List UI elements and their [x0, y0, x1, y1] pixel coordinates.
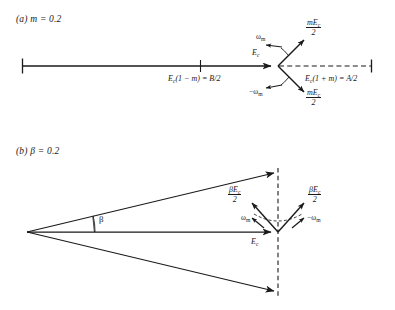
sideband-right-b-num-main: βE	[309, 185, 318, 194]
rotation-label-lower-a-sub: m	[258, 91, 262, 97]
panel-b-vectors	[27, 168, 304, 296]
rotation-label-lower-a: −ωm	[249, 88, 263, 96]
sideband-upper-phasor-a	[278, 40, 304, 66]
figure-root: (a) m = 0.2 Ec ωm −ωm mEc 2 mEc 2 Ec(1 −…	[0, 0, 395, 310]
sideband-left-b-num-sub: c	[238, 189, 240, 195]
sideband-upper-a-num-main: mE	[307, 18, 318, 27]
sideband-label-left-b-den: 2	[228, 195, 241, 204]
carrier-label-b-sub: c	[256, 241, 258, 247]
sideband-label-lower-a-den: 2	[306, 98, 321, 107]
carrier-label-a: Ec	[252, 49, 259, 57]
angle-label-b: β	[99, 215, 104, 224]
sideband-label-upper-a-den: 2	[306, 28, 321, 37]
rotation-label-upper-a-sub: m	[261, 36, 265, 42]
rotation-label-lower-a-main: −ω	[249, 87, 258, 96]
sideband-lower-a-num-main: mE	[307, 88, 318, 97]
rotation-arrow-left-b	[252, 218, 264, 228]
sideband-label-right-b-num: βEc	[308, 186, 321, 195]
sideband-label-right-b-den: 2	[308, 195, 321, 204]
panel-b-caption: (b) β = 0.2	[16, 147, 59, 157]
sideband-label-left-b-num: βEc	[228, 186, 241, 195]
sideband-label-upper-a-num: mEc	[306, 19, 321, 28]
rotation-arc-lower-a	[281, 77, 289, 85]
rotation-label-upper-a: ωm	[256, 33, 265, 41]
sideband-lower-phasor-a	[278, 66, 304, 92]
sideband-label-left-b: βEc 2	[228, 186, 241, 204]
left-equation-a: Ec(1 − m) = B/2	[168, 75, 220, 83]
sideband-label-right-b: βEc 2	[308, 186, 321, 204]
sideband-lower-a-num-sub: c	[318, 92, 320, 98]
rotation-arc-upper-a	[281, 48, 289, 56]
rotation-arrow-right-b	[292, 218, 304, 228]
rotation-label-right-b: −ωm	[307, 214, 321, 222]
rotation-label-left-b: ωm	[241, 214, 250, 222]
panel-a-caption: (a) m = 0.2	[16, 15, 62, 25]
carrier-label-a-sub: c	[257, 52, 259, 58]
rotation-arrow-upper-a	[266, 45, 282, 47]
sideband-label-lower-a: mEc 2	[306, 89, 321, 107]
rotation-label-right-b-main: −ω	[307, 213, 316, 222]
sideband-right-b-num-sub: c	[318, 189, 320, 195]
rotation-label-left-b-sub: m	[246, 217, 250, 223]
right-equation-a: Ec(1 + m) = A/2	[305, 75, 357, 83]
sideband-label-upper-a: mEc 2	[306, 19, 321, 37]
panel-a-vectors	[22, 40, 372, 92]
sideband-right-phasor-b	[278, 203, 304, 232]
right-equation-a-rest: (1 + m) = A/2	[312, 74, 357, 83]
lower-resultant-phasor-b	[27, 232, 274, 291]
left-equation-a-rest: (1 − m) = B/2	[175, 74, 220, 83]
rotation-label-right-b-sub: m	[316, 217, 320, 223]
rotation-arrow-lower-a	[266, 85, 282, 88]
sideband-label-lower-a-num: mEc	[306, 89, 321, 98]
sideband-left-b-num-main: βE	[229, 185, 238, 194]
sideband-left-phasor-b	[252, 203, 278, 232]
carrier-label-b: Ec	[251, 238, 258, 246]
sideband-upper-a-num-sub: c	[318, 22, 320, 28]
